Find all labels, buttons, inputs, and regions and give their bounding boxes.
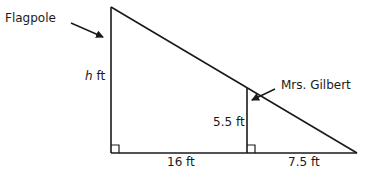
person-height-label: 5.5 ft [213, 115, 245, 129]
base-right-label: 7.5 ft [288, 155, 320, 169]
flagpole-arrow-icon [71, 23, 103, 37]
right-angle-mark-person [247, 145, 255, 153]
base-left-label: 16 ft [167, 155, 195, 169]
flagpole-label: Flagpole [5, 11, 56, 25]
pole-height-label: h ft [85, 69, 105, 83]
person-label: Mrs. Gilbert [281, 78, 351, 92]
right-angle-mark-pole [111, 145, 119, 153]
similar-triangles-diagram: Flagpole h ft Mrs. Gilbert 5.5 ft 16 ft … [0, 0, 370, 178]
